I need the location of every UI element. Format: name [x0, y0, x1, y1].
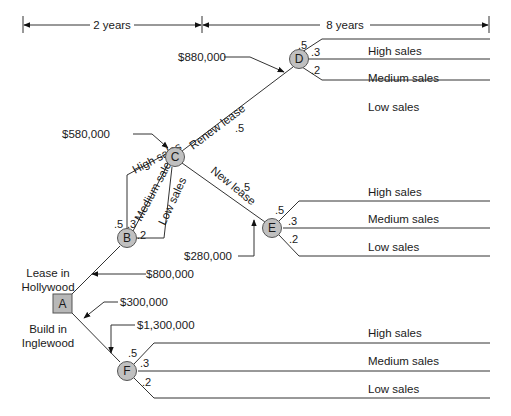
b-low-prob: .2	[137, 229, 146, 241]
decision-lease-label: Lease in	[26, 267, 69, 279]
f-low-label: Low sales	[368, 383, 419, 395]
cost-label-c: $580,000	[62, 128, 110, 140]
e-high-prob: .5	[275, 204, 284, 216]
decision-build-label: Build in	[29, 323, 67, 335]
period-2-label: 8 years	[326, 19, 364, 31]
decision-new-label: New lease	[209, 164, 258, 207]
f-medium-prob: .3	[140, 357, 149, 369]
cost-label-d: $880,000	[178, 51, 226, 63]
cost-arrow-e	[238, 220, 254, 256]
f-low-prob: .2	[142, 376, 151, 388]
node-a-label: A	[58, 297, 66, 311]
f-medium-label: Medium sales	[368, 355, 439, 367]
f-high-label: High sales	[368, 327, 422, 339]
cost-label-build: $300,000	[120, 296, 168, 308]
e-medium-label: Medium sales	[368, 213, 439, 225]
period-1-label: 2 years	[93, 19, 131, 31]
cost-label-f: $1,300,000	[137, 319, 195, 331]
e-low-prob: .2	[289, 233, 298, 245]
cost-label-e: $280,000	[184, 250, 232, 262]
decision-tree-diagram: 2 years 8 years $880,	[0, 0, 511, 416]
node-d-label: D	[295, 52, 304, 66]
branch-labels: Lease in Hollywood Build in Inglewood Re…	[21, 39, 439, 395]
decision-build-label-2: Inglewood	[22, 337, 74, 349]
b-high-prob: .5	[114, 218, 123, 230]
node-f: F	[118, 362, 137, 381]
e-low-label: Low sales	[368, 241, 419, 253]
node-c-label: C	[171, 150, 180, 164]
timeline: 2 years 8 years	[23, 16, 489, 33]
d-low-label: Low sales	[368, 101, 419, 113]
node-b-label: B	[123, 231, 131, 245]
e-medium-prob: .3	[288, 215, 297, 227]
node-b: B	[118, 229, 137, 248]
d-medium-prob: .3	[311, 46, 320, 58]
node-f-label: F	[123, 364, 130, 378]
node-e-label: E	[268, 221, 276, 235]
d-low-prob: .2	[311, 64, 320, 76]
prob-new: .5	[241, 181, 250, 193]
cost-arrow-c	[133, 134, 168, 148]
decision-lease-label-2: Hollywood	[21, 281, 74, 293]
node-d: D	[290, 50, 309, 69]
cost-label-lease: $800,000	[146, 268, 194, 280]
node-c: C	[166, 148, 185, 167]
d-medium-label: Medium sales	[368, 72, 439, 84]
cost-arrow-build	[84, 302, 118, 318]
e-high-label: High sales	[368, 186, 422, 198]
f-high-prob: .5	[128, 347, 137, 359]
node-e: E	[263, 219, 282, 238]
d-high-label: High sales	[368, 45, 422, 57]
prob-renew: .5	[235, 122, 244, 134]
cost-arrow-d	[224, 57, 284, 72]
node-a: A	[53, 294, 72, 313]
